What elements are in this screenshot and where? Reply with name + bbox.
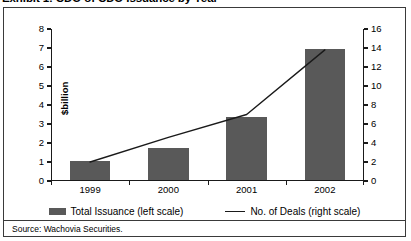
y-axis-right-tick-label: 12 [371, 62, 382, 72]
y-axis-right-tick [364, 104, 368, 105]
legend-bar-swatch-icon [49, 208, 66, 215]
y-axis-left-tick-label: 1 [39, 157, 44, 167]
x-axis-tick-label: 1999 [51, 185, 129, 195]
line-series [51, 29, 364, 181]
source-divider [4, 220, 405, 221]
chart-figure: $billion 012345678 0246810121416 1999200… [3, 7, 406, 237]
y-axis-right-tick-label: 6 [371, 119, 376, 129]
y-axis-right-tick-label: 10 [371, 81, 382, 91]
y-axis-right-tick [364, 47, 368, 48]
exhibit-title: Exhibit 1: CDO of CDO Issuance by Year [2, 0, 218, 6]
y-axis-right-tick [364, 66, 368, 67]
y-axis-left-tick-label: 2 [39, 138, 44, 148]
legend-item-no-of-deals: No. of Deals (right scale) [225, 206, 360, 217]
chart-legend: Total Issuance (left scale) No. of Deals… [4, 206, 405, 217]
y-axis-left-tick-label: 4 [39, 100, 44, 110]
y-axis-right-tick-label: 0 [371, 176, 376, 186]
y-axis-left-tick-label: 0 [39, 176, 44, 186]
y-axis-right-tick [364, 85, 368, 86]
y-axis-right-tick-label: 2 [371, 157, 376, 167]
y-axis-right-tick [364, 123, 368, 124]
y-axis-left-tick-label: 8 [39, 24, 44, 34]
y-axis-right-tick [364, 28, 368, 29]
y-axis-left-tick-label: 6 [39, 62, 44, 72]
legend-line-swatch-icon [225, 211, 245, 212]
y-axis-right-tick-label: 8 [371, 100, 376, 110]
y-axis-right-tick [364, 161, 368, 162]
y-axis-right-tick-label: 14 [371, 43, 382, 53]
legend-item-total-issuance: Total Issuance (left scale) [49, 206, 184, 217]
x-axis-tick-label: 2002 [286, 185, 364, 195]
source-note: Source: Wachovia Securities. [12, 224, 123, 235]
y-axis-left-tick-label: 7 [39, 43, 44, 53]
legend-label-total-issuance: Total Issuance (left scale) [71, 206, 184, 217]
y-axis-right-tick [364, 180, 368, 181]
y-axis-right-tick-label: 4 [371, 138, 376, 148]
y-axis-left-tick-label: 3 [39, 119, 44, 129]
y-axis-right-tick-label: 16 [371, 24, 382, 34]
legend-label-no-of-deals: No. of Deals (right scale) [250, 206, 360, 217]
plot-inner: 012345678 0246810121416 1999200020012002 [51, 29, 364, 181]
plot-area: $billion 012345678 0246810121416 1999200… [51, 29, 364, 181]
x-axis-tick-label: 2000 [129, 185, 207, 195]
y-axis-right-tick [364, 142, 368, 143]
x-axis-tick-label: 2001 [208, 185, 286, 195]
y-axis-left-tick-label: 5 [39, 81, 44, 91]
